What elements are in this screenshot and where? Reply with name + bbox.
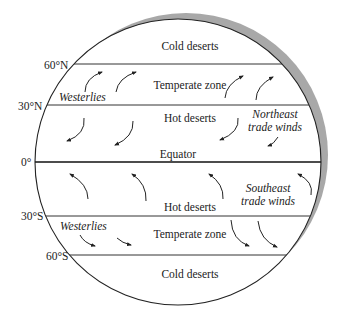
latitude-label-30s: 30°S [21,210,44,222]
zone-label-south-temperate: Temperate zone [154,228,227,241]
wind-label-south-westerlies: Westerlies [60,220,107,232]
latitude-label-equator: 0° [21,156,32,168]
latitude-label-60s: 60°S [46,250,69,262]
wind-label-northeast-trade-1: Northeast [251,108,298,120]
wind-label-north-westerlies: Westerlies [59,91,106,103]
wind-label-northeast-trade-2: trade winds [248,121,303,133]
zone-label-equator: Equator [160,148,197,161]
zone-label-south-hot-deserts: Hot deserts [164,201,217,213]
climate-zone-diagram: 60°N 30°N 0° 30°S 60°S Cold deserts Temp… [0,0,343,310]
latitude-label-30n: 30°N [18,100,43,112]
wind-label-southeast-trade-1: Southeast [246,182,292,194]
zone-label-north-hot-deserts: Hot deserts [164,112,217,124]
zone-label-north-cold-deserts: Cold deserts [161,40,219,52]
latitude-label-60n: 60°N [44,59,69,71]
zone-label-south-cold-deserts: Cold deserts [161,268,219,280]
wind-label-southeast-trade-2: trade winds [241,195,296,207]
zone-label-north-temperate: Temperate zone [154,79,227,92]
